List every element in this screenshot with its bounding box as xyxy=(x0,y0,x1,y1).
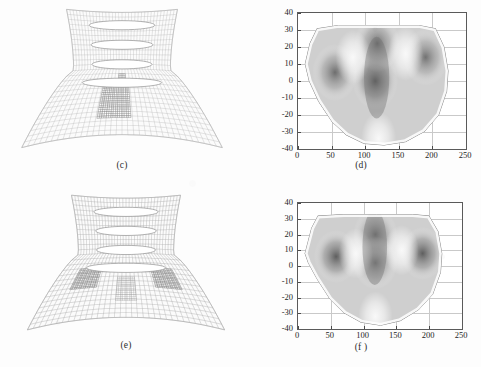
mesh-void-ellipse xyxy=(89,21,155,30)
x-axis-tick xyxy=(429,326,430,329)
contour-field-f xyxy=(298,203,462,329)
panel-c-mesh xyxy=(4,4,240,156)
x-axis-tick-label: 250 xyxy=(455,330,468,340)
y-axis-tick-label: -40 xyxy=(271,143,293,153)
caption-d: (d) xyxy=(245,160,477,170)
y-axis-tick xyxy=(298,132,301,133)
y-axis-tick xyxy=(298,282,301,283)
y-axis-tick xyxy=(298,64,301,65)
y-axis-tick-label: 40 xyxy=(271,7,293,17)
x-axis-tick-label: 0 xyxy=(295,150,299,160)
y-axis-tick xyxy=(298,203,301,204)
y-axis-tick xyxy=(298,298,301,299)
x-axis-tick-label: 50 xyxy=(326,150,335,160)
mesh-void-ellipse xyxy=(91,40,153,49)
y-axis-tick-label: -10 xyxy=(271,92,293,102)
y-axis-tick-label: -30 xyxy=(271,307,293,317)
panel-f-contour: 050100150200250-40-30-20-10010203040 xyxy=(245,192,477,340)
y-axis-tick-label: 20 xyxy=(271,229,293,239)
y-axis-tick-label: 10 xyxy=(271,244,293,254)
y-axis-tick-label: 40 xyxy=(271,197,293,207)
x-axis-tick-label: 0 xyxy=(295,330,299,340)
y-axis-tick-label: 30 xyxy=(271,213,293,223)
y-axis-tick xyxy=(298,219,301,220)
x-axis-tick-label: 200 xyxy=(425,150,438,160)
x-axis-tick-label: 200 xyxy=(422,330,435,340)
caption-e: (e) xyxy=(10,340,242,350)
mesh-void-ellipse xyxy=(94,207,158,216)
x-axis-tick-label: 100 xyxy=(356,330,369,340)
y-axis-tick-label: -10 xyxy=(271,276,293,286)
y-axis-tick-label: -20 xyxy=(271,292,293,302)
x-axis-tick-label: 150 xyxy=(389,330,402,340)
panel-d-contour: 050100150200250-40-30-20-10010203040 xyxy=(245,4,477,156)
mesh-void-ellipse xyxy=(86,263,165,272)
mesh-void-ellipse xyxy=(97,245,156,254)
y-axis-tick-label: 0 xyxy=(271,260,293,270)
x-axis-tick xyxy=(364,326,365,329)
y-axis-tick xyxy=(298,98,301,99)
plot-canvas-d xyxy=(298,13,466,149)
x-axis-tick-label: 100 xyxy=(358,150,371,160)
x-axis-tick xyxy=(399,146,400,149)
mesh-diagram-c xyxy=(4,4,240,156)
mesh-void-ellipse xyxy=(92,60,152,69)
x-axis-tick xyxy=(331,326,332,329)
x-axis-tick-label: 150 xyxy=(391,150,404,160)
y-axis-tick xyxy=(298,30,301,31)
x-axis-tick xyxy=(396,326,397,329)
y-axis-tick xyxy=(298,313,301,314)
y-axis-tick-label: -40 xyxy=(271,323,293,333)
y-axis-tick xyxy=(298,47,301,48)
x-axis-tick-label: 250 xyxy=(459,150,472,160)
figure-sheet: (c) 050100150200250-40-30-20-10010203040… xyxy=(0,0,481,367)
y-axis-tick xyxy=(298,266,301,267)
plot-frame-d xyxy=(297,12,467,150)
y-axis-tick-label: 20 xyxy=(271,41,293,51)
mesh-diagram-e xyxy=(10,190,242,338)
mesh-void-ellipse xyxy=(96,226,157,235)
contour-field-d xyxy=(298,13,466,149)
y-axis-tick xyxy=(298,235,301,236)
panel-e-mesh xyxy=(10,190,242,338)
mesh-void-ellipse xyxy=(82,78,161,87)
plot-canvas-f xyxy=(298,203,462,329)
x-axis-tick xyxy=(332,146,333,149)
y-axis-tick-label: -30 xyxy=(271,126,293,136)
caption-c: (c) xyxy=(4,160,240,170)
plot-frame-f xyxy=(297,202,463,330)
y-axis-tick-label: 10 xyxy=(271,58,293,68)
x-axis-tick xyxy=(432,146,433,149)
y-axis-tick-label: 0 xyxy=(271,75,293,85)
x-axis-tick-label: 50 xyxy=(326,330,335,340)
y-axis-tick-label: 30 xyxy=(271,24,293,34)
caption-f: (f ) xyxy=(245,342,477,352)
field-feature xyxy=(388,27,423,81)
y-axis-tick-label: -20 xyxy=(271,109,293,119)
x-axis-tick xyxy=(365,146,366,149)
field-feature xyxy=(384,225,418,275)
y-axis-tick xyxy=(298,115,301,116)
y-axis-tick xyxy=(298,250,301,251)
y-axis-tick xyxy=(298,81,301,82)
y-axis-tick xyxy=(298,13,301,14)
